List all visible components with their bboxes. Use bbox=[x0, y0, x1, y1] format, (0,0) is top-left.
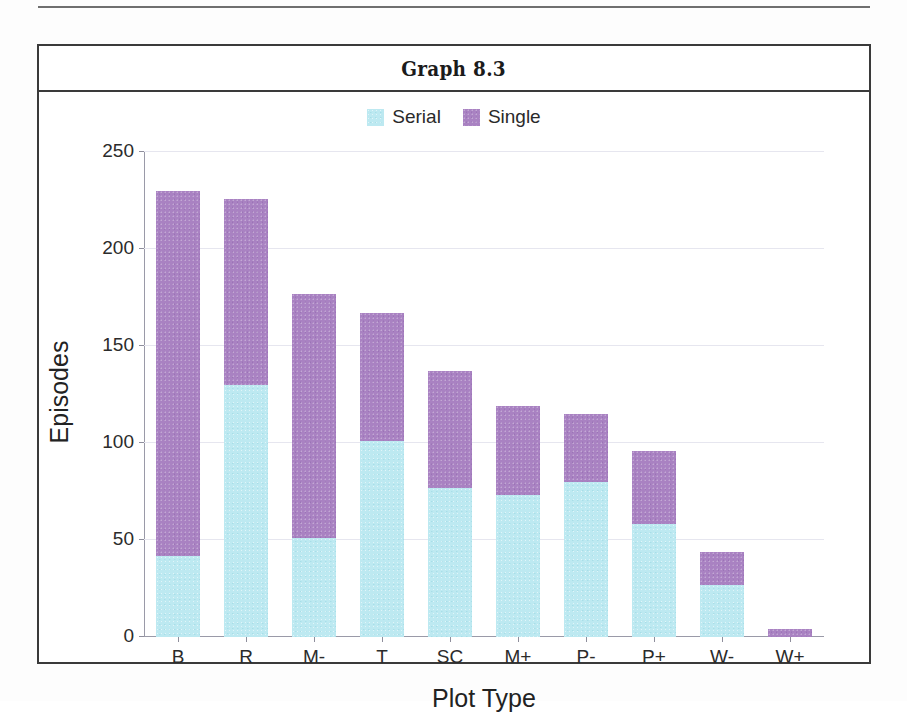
x-tick-mark bbox=[382, 637, 383, 642]
y-tick-label: 50 bbox=[113, 528, 134, 550]
bar-group[interactable]: M+ bbox=[484, 152, 552, 637]
plot-area: Serial Single Episodes Plot Type 0501001… bbox=[39, 92, 869, 662]
y-tick-label: 200 bbox=[102, 237, 134, 259]
legend-label-single: Single bbox=[488, 106, 541, 128]
x-tick-mark bbox=[790, 637, 791, 642]
figure-container: Graph 8.3 Serial Single Episodes Plot Ty… bbox=[37, 44, 871, 664]
bar-group[interactable]: P+ bbox=[620, 152, 688, 637]
bar-segment-single[interactable] bbox=[700, 552, 744, 585]
x-tick-mark bbox=[246, 637, 247, 642]
legend-entry-serial[interactable]: Serial bbox=[367, 106, 441, 128]
x-tick-label: R bbox=[239, 646, 253, 668]
bar-segment-serial[interactable] bbox=[700, 585, 744, 637]
bar-group[interactable]: R bbox=[212, 152, 280, 637]
bar-stack[interactable] bbox=[156, 191, 200, 637]
bar-segment-serial[interactable] bbox=[428, 488, 472, 637]
x-axis-title: Plot Type bbox=[144, 684, 824, 713]
bar-segment-single[interactable] bbox=[768, 629, 812, 637]
x-tick-label: W- bbox=[710, 646, 734, 668]
bar-group[interactable]: T bbox=[348, 152, 416, 637]
x-tick-label: M+ bbox=[505, 646, 532, 668]
bar-segment-serial[interactable] bbox=[496, 495, 540, 637]
bar-group[interactable]: P- bbox=[552, 152, 620, 637]
bar-segment-serial[interactable] bbox=[156, 556, 200, 637]
bar-segment-serial[interactable] bbox=[632, 524, 676, 637]
figure-title: Graph 8.3 bbox=[402, 56, 507, 81]
bar-segment-serial[interactable] bbox=[224, 385, 268, 637]
x-tick-label: M- bbox=[303, 646, 325, 668]
bar-group[interactable]: W- bbox=[688, 152, 756, 637]
y-tick-label: 150 bbox=[102, 334, 134, 356]
x-tick-mark bbox=[518, 637, 519, 642]
bar-stack[interactable] bbox=[360, 313, 404, 637]
bar-group[interactable]: B bbox=[144, 152, 212, 637]
x-tick-mark bbox=[722, 637, 723, 642]
x-tick-mark bbox=[654, 637, 655, 642]
bar-group[interactable]: SC bbox=[416, 152, 484, 637]
bar-segment-serial[interactable] bbox=[360, 441, 404, 637]
legend-label-serial: Serial bbox=[392, 106, 441, 128]
bar-group[interactable]: M- bbox=[280, 152, 348, 637]
bar-stack[interactable] bbox=[292, 294, 336, 637]
x-tick-mark bbox=[450, 637, 451, 642]
bar-segment-single[interactable] bbox=[224, 199, 268, 385]
x-tick-mark bbox=[586, 637, 587, 642]
bar-segment-serial[interactable] bbox=[564, 482, 608, 637]
bar-segment-single[interactable] bbox=[360, 313, 404, 441]
bar-segment-single[interactable] bbox=[632, 451, 676, 525]
bar-stack[interactable] bbox=[428, 371, 472, 637]
x-tick-mark bbox=[178, 637, 179, 642]
x-tick-label: P+ bbox=[642, 646, 666, 668]
x-tick-label: SC bbox=[437, 646, 463, 668]
bar-stack[interactable] bbox=[768, 629, 812, 637]
bar-segment-serial[interactable] bbox=[292, 538, 336, 637]
bar-segment-single[interactable] bbox=[156, 191, 200, 556]
bar-segment-single[interactable] bbox=[292, 294, 336, 538]
chart-plot: 050100150200250 BRM-TSCM+P-P+W-W+ bbox=[144, 152, 824, 637]
x-tick-label: W+ bbox=[775, 646, 804, 668]
x-tick-mark bbox=[314, 637, 315, 642]
legend-swatch-serial-icon bbox=[367, 109, 384, 126]
y-tick-label: 100 bbox=[102, 431, 134, 453]
bar-segment-single[interactable] bbox=[428, 371, 472, 487]
bar-stack[interactable] bbox=[496, 406, 540, 637]
x-tick-label: T bbox=[376, 646, 388, 668]
page-top-rule bbox=[38, 6, 870, 8]
y-tick-label: 0 bbox=[123, 625, 134, 647]
y-tick-label: 250 bbox=[102, 140, 134, 162]
bar-stack[interactable] bbox=[700, 552, 744, 637]
bar-stack[interactable] bbox=[632, 451, 676, 637]
chart-legend: Serial Single bbox=[39, 106, 869, 128]
bar-segment-single[interactable] bbox=[496, 406, 540, 495]
figure-title-bar: Graph 8.3 bbox=[39, 46, 869, 92]
x-tick-label: B bbox=[172, 646, 185, 668]
bar-stack[interactable] bbox=[564, 414, 608, 637]
x-tick-label: P- bbox=[577, 646, 596, 668]
y-axis-title: Episodes bbox=[45, 341, 74, 444]
legend-entry-single[interactable]: Single bbox=[463, 106, 541, 128]
bar-group[interactable]: W+ bbox=[756, 152, 824, 637]
bar-segment-single[interactable] bbox=[564, 414, 608, 482]
legend-swatch-single-icon bbox=[463, 109, 480, 126]
bars-group: BRM-TSCM+P-P+W-W+ bbox=[144, 152, 824, 637]
bar-stack[interactable] bbox=[224, 199, 268, 637]
